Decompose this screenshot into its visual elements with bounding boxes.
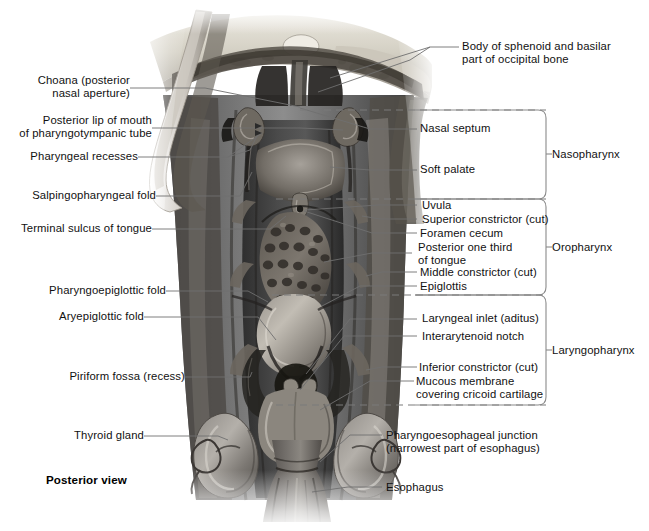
label-middle-constrictor: Middle constrictor (cut) [420, 266, 537, 279]
label-nasal-septum: Nasal septum [420, 122, 490, 135]
label-terminal-sulcus-of-tongue: Terminal sulcus of tongue [0, 222, 152, 235]
label-mucous-membrane-cricoid: Mucous membrane covering cricoid cartila… [416, 375, 543, 400]
label-choana: Choana (posterior nasal aperture) [0, 74, 130, 99]
label-inferior-constrictor: Inferior constrictor (cut) [419, 361, 538, 374]
label-piriform-fossa: Piriform fossa (recess) [0, 370, 185, 383]
label-aryepiglottic-fold: Aryepiglottic fold [0, 310, 144, 323]
label-uvula: Uvula [422, 199, 451, 212]
label-posterior-lip-pharyngotympanic-tube: Posterior lip of mouth of pharyngotympan… [0, 114, 152, 139]
label-foramen-cecum: Foramen cecum [420, 227, 503, 240]
label-sphenoid-basilar-occipital: Body of sphenoid and basilar part of occ… [462, 40, 611, 65]
label-laryngeal-inlet: Laryngeal inlet (aditus) [422, 312, 539, 325]
region-label-nasopharynx: Nasopharynx [552, 148, 620, 161]
region-label-laryngopharynx: Laryngopharynx [552, 344, 635, 357]
label-epiglottis: Epiglottis [420, 280, 467, 293]
label-thyroid-gland: Thyroid gland [0, 429, 144, 442]
view-note: Posterior view [46, 474, 127, 487]
label-salpingopharyngeal-fold: Salpingopharyngeal fold [0, 189, 156, 202]
anatomy-figure: Choana (posterior nasal aperture) Poster… [0, 0, 649, 531]
label-soft-palate: Soft palate [420, 163, 475, 176]
label-pharyngoesophageal-junction: Pharyngoesophageal junction (narrowest p… [386, 429, 540, 454]
label-pharyngeal-recesses: Pharyngeal recesses [0, 150, 138, 163]
label-pharyngoepiglottic-fold: Pharyngoepiglottic fold [0, 284, 166, 297]
label-superior-constrictor: Superior constrictor (cut) [422, 213, 549, 226]
region-label-oropharynx: Oropharynx [552, 241, 612, 254]
label-posterior-one-third-of-tongue: Posterior one third of tongue [418, 241, 512, 266]
label-interarytenoid-notch: Interarytenoid notch [422, 330, 524, 343]
label-esophagus: Esophagus [386, 481, 444, 494]
